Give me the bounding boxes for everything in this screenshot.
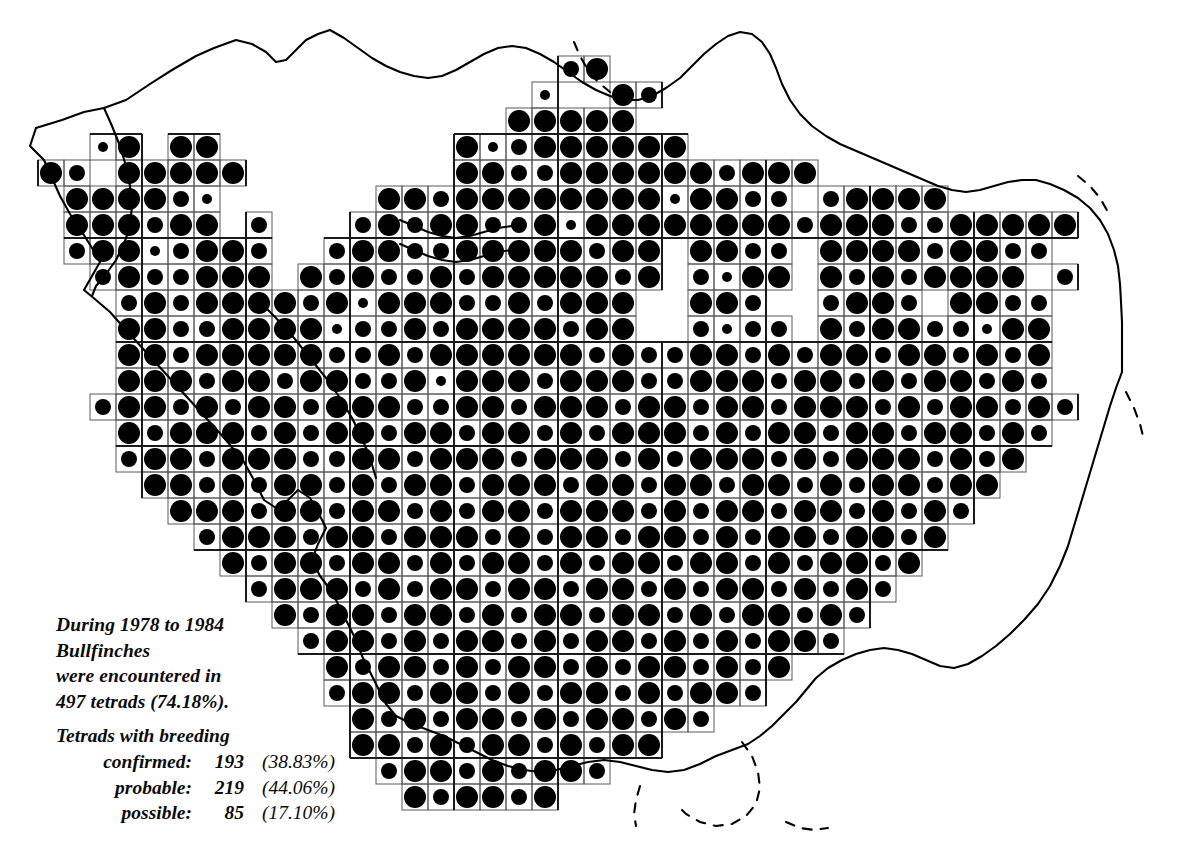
dot-probable [589,555,605,571]
dot-confirmed [560,500,582,522]
dot-probable [771,399,787,415]
dot-probable [641,503,657,519]
dot-confirmed [1028,396,1050,418]
dot-confirmed [352,448,374,470]
dot-confirmed [690,552,712,574]
dot-probable [459,607,475,623]
dot-confirmed [222,474,244,496]
dot-probable [641,373,657,389]
dot-probable [927,399,943,415]
dot-confirmed [300,500,322,522]
dot-confirmed [274,552,296,574]
dot-confirmed [820,604,842,626]
dot-probable [95,269,111,285]
dot-confirmed [274,578,296,600]
dot-probable [199,477,215,493]
dot-confirmed [534,214,556,236]
dot-confirmed [768,266,790,288]
dot-confirmed [404,474,426,496]
dot-probable [849,269,865,285]
dot-confirmed [950,448,972,470]
dot-confirmed [560,552,582,574]
dot-probable [901,217,917,233]
stat-label-probable: probable: [56,775,192,801]
dot-probable [615,529,631,545]
dot-confirmed [456,448,478,470]
dot-confirmed [196,266,218,288]
dot-confirmed [872,240,894,262]
dot-confirmed [118,318,140,340]
dot-confirmed [1002,370,1024,392]
dot-probable [745,347,761,363]
dot-probable [173,321,189,337]
caption-line-1: During 1978 to 1984 [56,612,396,638]
dot-confirmed [638,526,660,548]
dot-probable [485,295,501,311]
dot-probable [69,165,85,181]
dot-confirmed [586,162,608,184]
dot-confirmed [222,318,244,340]
dot-probable [329,269,345,285]
dot-probable [667,555,683,571]
dot-confirmed [742,214,764,236]
dot-confirmed [430,344,452,366]
dot-probable [797,555,813,571]
dot-probable [745,659,761,675]
dot-confirmed [690,188,712,210]
dot-possible [488,142,498,152]
dot-probable [173,269,189,285]
dot-confirmed [612,162,634,184]
dot-confirmed [950,266,972,288]
dot-confirmed [482,370,504,392]
dot-probable [693,399,709,415]
dot-confirmed [898,240,920,262]
dot-probable [563,477,579,493]
dot-probable [381,529,397,545]
dot-confirmed [664,500,686,522]
dot-probable [641,711,657,727]
dot-confirmed [196,240,218,262]
dot-confirmed [846,578,868,600]
dot-confirmed [508,500,530,522]
dot-confirmed [716,630,738,652]
dot-confirmed [742,604,764,626]
dot-probable [641,581,657,597]
dot-confirmed [820,474,842,496]
dot-confirmed [742,396,764,418]
dot-confirmed [612,474,634,496]
dot-probable [407,217,423,233]
dot-confirmed [612,578,634,600]
dot-confirmed [482,396,504,418]
dot-probable [927,477,943,493]
dot-confirmed [742,162,764,184]
dot-probable [199,373,215,389]
dot-confirmed [482,630,504,652]
dot-confirmed [378,448,400,470]
dot-confirmed [144,292,166,314]
dot-confirmed [534,760,556,782]
dot-confirmed [482,422,504,444]
dot-probable [407,581,423,597]
dot-probable [407,685,423,701]
dot-confirmed [690,214,712,236]
dot-probable [979,373,995,389]
dot-possible [202,194,212,204]
dot-confirmed [378,344,400,366]
dot-confirmed [612,318,634,340]
dot-probable [537,555,553,571]
dot-confirmed [898,448,920,470]
dot-confirmed [66,214,88,236]
dot-probable [459,425,475,441]
dot-confirmed [92,240,114,262]
dot-confirmed [560,266,582,288]
dot-confirmed [430,266,452,288]
dot-probable [901,373,917,389]
dot-confirmed [898,344,920,366]
dot-probable [693,529,709,545]
dot-confirmed [768,526,790,548]
dot-confirmed [898,474,920,496]
dot-confirmed [1002,448,1024,470]
dot-probable [511,711,527,727]
dot-possible [358,298,368,308]
dot-probable [459,269,475,285]
